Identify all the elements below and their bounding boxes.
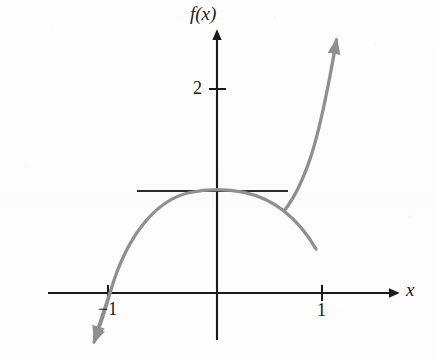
x-axis-label: x bbox=[406, 279, 414, 301]
x-tick-label-negative-1: −1 bbox=[98, 299, 117, 320]
x-tick-label-1: 1 bbox=[317, 300, 326, 321]
axes-group bbox=[48, 31, 398, 340]
function-curve-upper-branch bbox=[284, 40, 337, 211]
plot-canvas bbox=[0, 0, 436, 361]
y-tick-label-2: 2 bbox=[193, 78, 202, 99]
tick-marks-group bbox=[108, 89, 322, 301]
function-curve bbox=[94, 190, 316, 342]
y-axis-label: f(x) bbox=[190, 3, 216, 25]
function-graph-figure: f(x) x 2 −1 1 bbox=[0, 0, 436, 361]
